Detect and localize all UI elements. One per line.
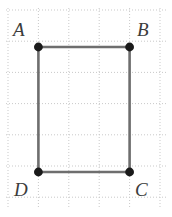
vertex-label-d: D bbox=[14, 180, 28, 199]
vertex-dot-B bbox=[125, 43, 134, 52]
vertex-label-a: A bbox=[13, 20, 25, 39]
vertex-label-b: B bbox=[137, 20, 149, 39]
vertex-dot-A bbox=[34, 43, 43, 52]
geometry-figure: A B D C bbox=[0, 0, 172, 217]
vertex-dot-D bbox=[34, 168, 43, 177]
vertex-dot-C bbox=[125, 168, 134, 177]
vertex-label-c: C bbox=[135, 180, 148, 199]
